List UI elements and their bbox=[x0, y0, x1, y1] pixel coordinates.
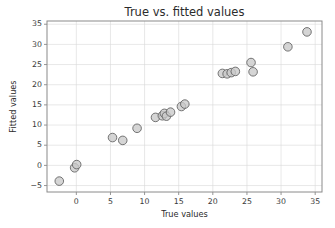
chart-figure: 05101520253035 −505101520253035 True vs.… bbox=[0, 0, 335, 228]
x-tick-label: 25 bbox=[242, 197, 252, 206]
x-tick-label: 35 bbox=[310, 197, 320, 206]
scatter-point bbox=[118, 136, 127, 145]
x-tick-label: 30 bbox=[276, 197, 286, 206]
x-tick-label: 15 bbox=[174, 197, 184, 206]
y-tick-label: 25 bbox=[32, 60, 42, 69]
x-axis-label: True values bbox=[160, 209, 208, 219]
x-tick-label: 0 bbox=[74, 197, 79, 206]
x-tick-label: 20 bbox=[208, 197, 218, 206]
scatter-point bbox=[55, 177, 64, 186]
scatter-plot-canvas: 05101520253035 −505101520253035 True vs.… bbox=[0, 0, 335, 228]
scatter-point bbox=[231, 67, 240, 76]
chart-title: True vs. fitted values bbox=[124, 5, 245, 19]
y-tick-label: 10 bbox=[32, 120, 42, 129]
y-tick-label: 0 bbox=[37, 161, 42, 170]
y-tick-label: 35 bbox=[32, 19, 42, 28]
y-tick-label: −5 bbox=[31, 181, 43, 190]
y-axis-label: Fitted values bbox=[8, 80, 18, 132]
scatter-point bbox=[181, 100, 190, 109]
x-tick-label: 5 bbox=[108, 197, 113, 206]
scatter-point bbox=[72, 160, 81, 169]
scatter-point bbox=[249, 68, 258, 77]
scatter-point bbox=[247, 58, 256, 67]
y-tick-label: 20 bbox=[32, 80, 42, 89]
x-tick-label: 10 bbox=[140, 197, 150, 206]
scatter-point bbox=[133, 124, 142, 133]
y-tick-label: 5 bbox=[37, 140, 42, 149]
scatter-point bbox=[166, 108, 175, 117]
y-tick-label: 15 bbox=[32, 100, 42, 109]
scatter-point bbox=[108, 133, 117, 142]
scatter-point bbox=[284, 43, 293, 52]
scatter-point bbox=[303, 28, 312, 37]
y-tick-label: 30 bbox=[32, 40, 42, 49]
